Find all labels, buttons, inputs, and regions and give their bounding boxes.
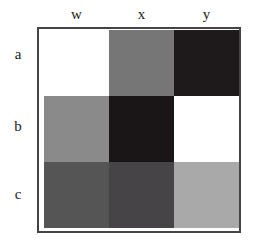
heatmap-cell-b-w	[44, 96, 109, 162]
heatmap-cell-a-x	[109, 30, 174, 96]
heatmap-cell-c-w	[44, 162, 109, 228]
heatmap-cell-c-x	[109, 162, 174, 228]
heatmap-cell-b-y	[174, 96, 239, 162]
column-label-y: y	[174, 6, 239, 23]
row-label-c: c	[10, 186, 26, 203]
heatmap-cell-b-x	[109, 96, 174, 162]
heatmap-cell-a-w	[44, 30, 109, 96]
column-label-w: w	[44, 6, 109, 23]
heatmap-cell-a-y	[174, 30, 239, 96]
row-label-a: a	[10, 46, 26, 63]
row-label-b: b	[10, 118, 26, 135]
heatmap-cell-c-y	[174, 162, 239, 228]
heatmap-grid	[44, 30, 239, 228]
column-label-x: x	[109, 6, 174, 23]
